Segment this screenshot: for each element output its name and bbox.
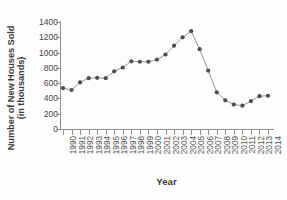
x-axis-tick-mark	[217, 130, 218, 135]
data-point-marker	[240, 104, 244, 108]
x-axis-tick-mark	[72, 130, 73, 135]
line-chart: Number of New Houses Sold (in thousands)…	[0, 0, 287, 200]
y-axis-title-line-1: Number of New Houses Sold	[6, 26, 16, 151]
x-axis-tick-mark	[123, 130, 124, 135]
x-axis-tick-mark	[148, 130, 149, 135]
x-axis-tick-mark	[183, 130, 184, 135]
x-axis-tick-labels: 1990199119921993199419951996199719981999…	[60, 136, 273, 170]
data-point-marker	[172, 44, 176, 48]
x-axis-tick-mark	[225, 130, 226, 135]
data-point-marker	[121, 65, 125, 69]
x-axis-tick-mark	[242, 130, 243, 135]
y-axis-tick-mark	[56, 68, 60, 69]
data-point-marker	[215, 90, 219, 94]
data-point-marker	[61, 86, 65, 90]
y-axis-tick-mark	[56, 129, 60, 130]
data-point-marker	[87, 76, 91, 80]
data-point-marker	[249, 99, 253, 103]
x-axis-tick-label: 2003	[181, 136, 189, 154]
x-axis-tick-label: 2001	[164, 136, 172, 154]
data-point-marker	[257, 94, 261, 98]
y-axis-tick-mark	[56, 22, 60, 23]
data-point-marker	[146, 60, 150, 64]
data-point-marker	[104, 76, 108, 80]
y-axis-tick-mark	[56, 98, 60, 99]
data-point-marker	[232, 102, 236, 106]
plot-area	[60, 22, 273, 129]
data-point-marker	[198, 47, 202, 51]
data-point-marker	[112, 69, 116, 73]
data-point-marker	[69, 88, 73, 92]
x-axis-tick-mark	[268, 130, 269, 135]
series-line	[63, 31, 268, 106]
data-point-marker	[155, 58, 159, 62]
data-point-marker	[223, 98, 227, 102]
x-axis-tick-mark	[259, 130, 260, 135]
y-axis-tick-labels: 0200400600800100012001400	[28, 22, 58, 129]
data-point-marker	[95, 76, 99, 80]
data-point-marker	[163, 52, 167, 56]
y-axis-tick-mark	[56, 37, 60, 38]
y-axis-tick-mark	[56, 53, 60, 54]
x-axis-tick-mark	[89, 130, 90, 135]
x-axis-tick-mark	[166, 130, 167, 135]
y-axis-title: Number of New Houses Sold (in thousands)	[3, 8, 29, 168]
x-axis-tick-mark	[114, 130, 115, 135]
x-axis-tick-mark	[234, 130, 235, 135]
x-axis-tick-mark	[131, 130, 132, 135]
x-axis-tick-label: 1990	[70, 136, 78, 154]
x-axis-tick-mark	[251, 130, 252, 135]
data-point-marker	[266, 94, 270, 98]
data-point-marker	[189, 29, 193, 33]
x-axis-tick-mark	[106, 130, 107, 135]
y-axis-title-line-2: (in thousands)	[16, 57, 26, 120]
x-axis-tick-mark	[63, 130, 64, 135]
x-axis-tick-mark	[191, 130, 192, 135]
data-point-marker	[138, 60, 142, 64]
x-axis-title: Year	[60, 176, 273, 187]
x-axis-tick-mark	[200, 130, 201, 135]
x-axis-tick-mark	[140, 130, 141, 135]
data-point-marker	[129, 59, 133, 63]
x-axis-tick-marks	[60, 130, 273, 135]
x-axis-tick-mark	[208, 130, 209, 135]
y-axis-tick-mark	[56, 114, 60, 115]
x-axis-tick-mark	[97, 130, 98, 135]
data-point-marker	[206, 68, 210, 72]
data-series-new-houses-sold	[60, 22, 273, 129]
y-axis-tick-mark	[56, 83, 60, 84]
x-axis-tick-mark	[157, 130, 158, 135]
data-point-marker	[180, 35, 184, 39]
x-axis-tick-label: 2014	[275, 136, 283, 154]
data-point-marker	[78, 80, 82, 84]
x-axis-tick-mark	[174, 130, 175, 135]
x-axis-tick-mark	[80, 130, 81, 135]
